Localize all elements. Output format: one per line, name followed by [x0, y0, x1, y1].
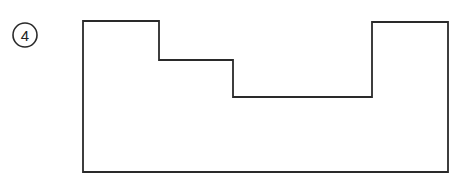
- figure-number-badge: 4: [13, 23, 37, 47]
- figure-number: 4: [21, 27, 29, 44]
- stepped-outline-shape: [83, 21, 448, 172]
- diagram-canvas: 4: [0, 0, 459, 180]
